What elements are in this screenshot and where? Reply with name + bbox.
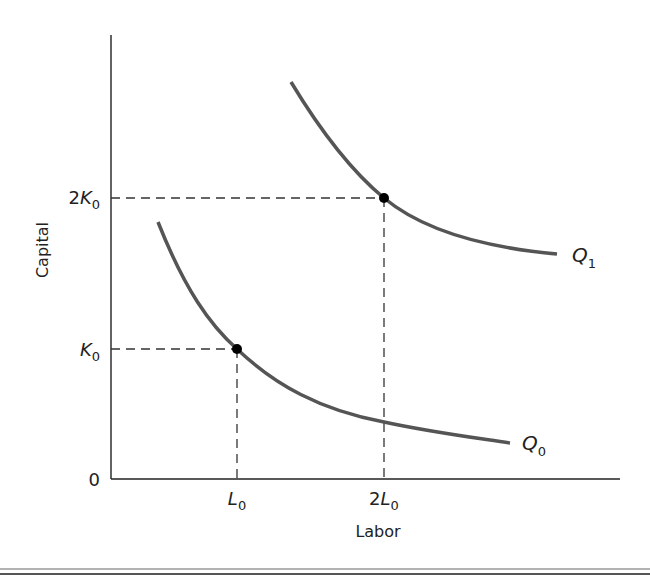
isoquant-q0-curve: [158, 222, 510, 443]
y-axis-title: Capital: [33, 222, 52, 278]
guide-lines: [111, 198, 384, 479]
y-tick-k0: K0: [80, 339, 100, 364]
x-tick-l0: L0: [228, 488, 246, 513]
isoquant-q1-curve: [291, 82, 557, 254]
isoquant-diagram: Q1 Q0 2K0 K0 0 L0 2L0 Labor Capital: [0, 0, 650, 577]
x-axis-title: Labor: [355, 522, 401, 541]
point-l0-k0: [232, 344, 242, 354]
q1-label: Q1: [572, 243, 596, 271]
point-2l0-2k0: [379, 193, 389, 203]
origin-label: 0: [89, 469, 100, 490]
q0-label: Q0: [522, 431, 546, 459]
y-tick-2k0: 2K0: [68, 187, 100, 212]
x-tick-2l0: 2L0: [369, 488, 399, 513]
